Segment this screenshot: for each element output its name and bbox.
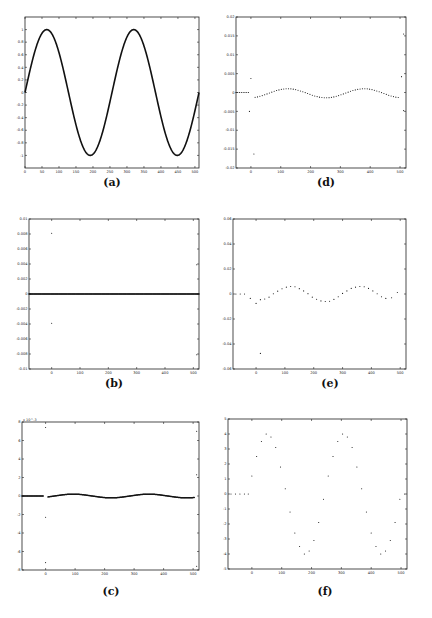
y-tick-label: 1: [21, 28, 23, 32]
data-point: [360, 88, 361, 89]
y-tick-label: -0.04: [222, 342, 232, 346]
data-point: [368, 288, 369, 289]
y-tick-label: 0.6: [18, 53, 24, 57]
data-point: [329, 301, 330, 302]
data-point: [277, 291, 278, 292]
panel-f: 0100200300400500-5-4-3-2-1012345: [223, 417, 407, 575]
data-point: [403, 110, 404, 111]
data-point: [244, 92, 245, 93]
data-point: [383, 93, 384, 94]
y-tick-label: -0.005: [223, 110, 235, 114]
y-tick-label: 2: [18, 476, 20, 480]
data-point: [273, 293, 274, 294]
data-point: [386, 94, 387, 95]
data-point: [274, 91, 275, 92]
y-tick-label: 0.02: [226, 15, 234, 19]
data-point: [196, 354, 197, 355]
series-wave: [251, 433, 405, 554]
data-point: [318, 522, 319, 523]
x-tick-label: 200: [101, 572, 109, 576]
data-point: [374, 90, 375, 91]
x-tick-label: 300: [124, 170, 132, 174]
data-point: [45, 562, 46, 563]
y-tick-label: 0: [25, 292, 28, 296]
plot-frame: [233, 219, 406, 369]
data-point: [332, 456, 333, 457]
y-tick-label: -0.008: [16, 352, 28, 356]
y-tick-label: -5: [223, 567, 227, 571]
data-point: [307, 293, 308, 294]
y-tick-label: 0.2: [18, 78, 24, 82]
data-point: [270, 436, 271, 437]
y-tick-label: 0: [21, 91, 24, 95]
data-point: [286, 287, 287, 288]
y-tick-label: -0.4: [16, 116, 24, 120]
y-tick-label: 0.002: [17, 277, 27, 281]
data-point: [385, 550, 386, 551]
data-point: [364, 286, 365, 287]
plot-frame: [228, 419, 407, 569]
x-tick-label: 0: [251, 571, 254, 575]
x-tick-label: 500: [190, 371, 198, 375]
caption-e: (e): [321, 377, 338, 390]
data-point: [294, 532, 295, 533]
y-tick-label: 4: [224, 432, 227, 436]
data-point: [362, 88, 363, 89]
data-point: [280, 466, 281, 467]
data-point: [290, 286, 291, 287]
data-point: [317, 96, 318, 97]
data-point: [403, 33, 404, 34]
y-tick-label: 0.04: [223, 242, 232, 246]
data-point: [380, 553, 381, 554]
data-point: [398, 97, 399, 98]
y-tick-label: -0.006: [16, 337, 28, 341]
data-point: [377, 293, 378, 294]
y-tick-label: -1: [20, 154, 24, 158]
data-point: [51, 323, 52, 324]
data-point: [299, 288, 300, 289]
y-tick-label: -0.01: [225, 128, 234, 132]
y-tick-label: 2: [224, 462, 226, 466]
data-point: [381, 92, 382, 93]
x-tick-label: 200: [307, 170, 315, 174]
y-tick-label: -3: [223, 537, 227, 541]
data-point: [347, 436, 348, 437]
y-tick-label: 0.015: [224, 34, 234, 38]
data-point: [261, 441, 262, 442]
data-point: [275, 447, 276, 448]
data-point: [331, 97, 332, 98]
x-tick-label: 500: [190, 572, 198, 576]
data-point: [343, 93, 344, 94]
y-tick-label: 0: [232, 91, 235, 95]
data-point: [393, 96, 394, 97]
data-point: [313, 540, 314, 541]
data-point: [239, 493, 240, 494]
y-tick-label: 0.008: [17, 232, 28, 236]
x-tick-label: 0: [250, 170, 253, 174]
data-point: [351, 288, 352, 289]
data-point: [309, 550, 310, 551]
y-tick-label: -0.06: [222, 367, 232, 371]
data-point: [350, 91, 351, 92]
x-tick-label: 300: [131, 572, 139, 576]
x-tick-label: 300: [133, 371, 141, 375]
data-point: [342, 433, 343, 434]
data-point: [348, 92, 349, 93]
data-point: [357, 89, 358, 90]
series-wave: [250, 286, 398, 304]
y-tick-label: -0.002: [16, 307, 28, 311]
series-coefficients: [28, 293, 200, 295]
data-point: [256, 303, 257, 304]
data-point: [194, 497, 196, 499]
y-tick-label: -6: [17, 550, 21, 554]
data-point: [381, 296, 382, 297]
data-point: [329, 97, 330, 98]
caption-d: (d): [317, 176, 335, 189]
figure: 050100150200250300350400450500-1-0.8-0.6…: [0, 0, 432, 618]
data-point: [196, 264, 197, 265]
x-tick-label: 400: [368, 371, 376, 375]
data-point: [395, 522, 396, 523]
x-tick-label: 100: [278, 571, 286, 575]
data-point: [375, 546, 376, 547]
data-point: [323, 499, 324, 500]
